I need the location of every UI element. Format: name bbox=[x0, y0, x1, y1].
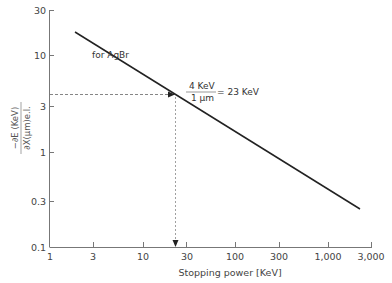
y-tick-label: 0.3 bbox=[31, 196, 46, 207]
y-tick-label: 3 bbox=[40, 101, 46, 112]
annotation-denominator: 1 μm bbox=[191, 93, 214, 103]
x-ticks bbox=[94, 242, 372, 247]
annotation-numerator: 4 KeV bbox=[189, 81, 216, 91]
x-tick-label: 300 bbox=[270, 251, 288, 262]
x-tick-label: 1,000 bbox=[314, 251, 341, 262]
x-tick-labels: 1 3 10 30 100 300 1,000 3,000 bbox=[47, 251, 385, 262]
x-tick-label: 10 bbox=[137, 251, 149, 262]
x-axis-label: Stopping power [KeV] bbox=[178, 267, 281, 278]
x-tick-label: 100 bbox=[226, 251, 244, 262]
series-label: for AgBr bbox=[92, 50, 129, 60]
x-tick-label: 3 bbox=[90, 251, 96, 262]
arrow-down-icon bbox=[173, 240, 179, 247]
x-tick-label: 1 bbox=[47, 251, 53, 262]
y-tick-label: 1 bbox=[40, 147, 46, 158]
y-tick-label: 30 bbox=[34, 5, 46, 16]
y-tick-label: 10 bbox=[34, 50, 46, 61]
annotation-result: = 23 KeV bbox=[217, 87, 260, 97]
y-axis-label-denominator: ∂X(μm)e.l. bbox=[22, 106, 32, 150]
stopping-power-chart: 30 10 3 1 0.3 0.1 1 3 10 30 100 300 1,00… bbox=[0, 0, 392, 283]
y-tick-label: 0.1 bbox=[31, 242, 46, 253]
y-axis-label: −∂E (KeV) ∂X(μm)e.l. bbox=[10, 102, 32, 154]
x-tick-label: 30 bbox=[181, 251, 193, 262]
y-axis-label-numerator: −∂E (KeV) bbox=[10, 107, 20, 149]
x-tick-label: 3,000 bbox=[357, 251, 384, 262]
y-tick-labels: 30 10 3 1 0.3 0.1 bbox=[31, 5, 46, 253]
